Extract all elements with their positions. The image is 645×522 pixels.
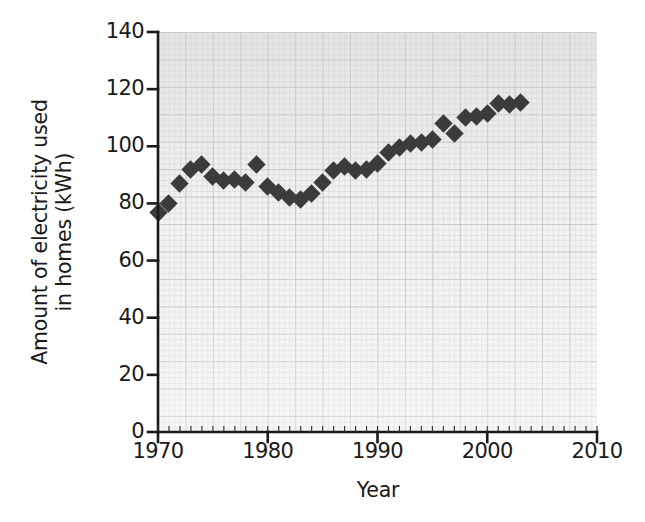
x-tick-label-text: 1990 bbox=[352, 439, 403, 463]
x-tick-label-2010: 2010 bbox=[552, 441, 642, 462]
x-tick-label-1980: 1980 bbox=[223, 441, 313, 462]
y-tick-label-text: 80 bbox=[86, 192, 144, 213]
plot-area bbox=[158, 32, 597, 432]
x-tick-label-text: 1980 bbox=[242, 439, 293, 463]
y-axis-title-line-2: in homes (kWh) bbox=[53, 153, 77, 312]
x-tick-label-1970: 1970 bbox=[113, 441, 203, 462]
y-axis-title-line-1: Amount of electricity used bbox=[29, 99, 53, 364]
chart-figure: 020406080100120140 19701980199020002010 … bbox=[0, 0, 645, 522]
x-tick-label-text: 1970 bbox=[132, 439, 183, 463]
y-tick-label-text: 100 bbox=[86, 135, 144, 156]
x-axis-title: Year bbox=[158, 478, 598, 502]
y-tick-label-text: 120 bbox=[86, 78, 144, 99]
y-tick-label-text: 140 bbox=[86, 21, 144, 42]
x-tick-label-1990: 1990 bbox=[333, 441, 423, 462]
plot-sheen bbox=[158, 32, 597, 432]
y-tick-label-text: 20 bbox=[86, 364, 144, 385]
data-point bbox=[248, 156, 266, 174]
x-tick-label-text: 2010 bbox=[571, 439, 622, 463]
y-axis-title: Amount of electricity used in homes (kWh… bbox=[22, 12, 84, 452]
y-tick-label-text: 60 bbox=[86, 250, 144, 271]
y-tick-label-text: 40 bbox=[86, 307, 144, 328]
data-point bbox=[171, 174, 189, 192]
x-tick-label-2000: 2000 bbox=[442, 441, 532, 462]
x-tick-label-text: 2000 bbox=[462, 439, 513, 463]
y-tick-marks bbox=[148, 32, 158, 432]
